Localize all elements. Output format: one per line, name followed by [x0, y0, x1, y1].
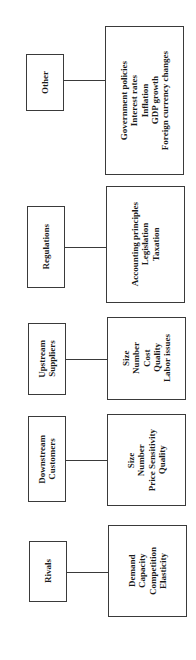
- category-label-downstream-customers: Downstream Customers: [37, 435, 58, 484]
- detail-box-downstream-customers: Size Number Price Sensitivity Quality: [107, 414, 186, 506]
- category-box-rivals: Rivals: [29, 541, 67, 602]
- detail-list-other: Government policies Interest rates Infla…: [119, 51, 171, 150]
- category-box-regulations: Regulations: [27, 206, 65, 288]
- category-box-upstream-suppliers: Upstream Suppliers: [28, 323, 66, 395]
- connector-regulations: [65, 247, 106, 248]
- category-label-upstream-suppliers: Upstream Suppliers: [37, 340, 58, 378]
- detail-box-upstream-suppliers: Size Number Cost Quality Labor issues: [107, 317, 186, 400]
- category-label-rivals: Rivals: [43, 559, 53, 583]
- detail-box-regulations: Accounting principles Legislation Taxati…: [106, 186, 185, 303]
- category-label-other: Other: [40, 71, 50, 94]
- detail-list-rivals: Demand Capacity Competition Elasticity: [127, 547, 168, 595]
- detail-list-downstream-customers: Size Number Price Sensitivity Quality: [126, 429, 167, 491]
- detail-box-other: Government policies Interest rates Infla…: [105, 26, 184, 175]
- category-box-other: Other: [26, 54, 64, 111]
- connector-rivals: [67, 572, 108, 573]
- connector-upstream-suppliers: [66, 359, 107, 360]
- connector-downstream-customers: [66, 460, 107, 461]
- category-label-regulations: Regulations: [41, 224, 51, 270]
- detail-list-upstream-suppliers: Size Number Cost Quality Labor issues: [121, 334, 173, 382]
- category-box-downstream-customers: Downstream Customers: [28, 416, 66, 502]
- detail-list-regulations: Accounting principles Legislation Taxati…: [130, 202, 161, 286]
- detail-box-rivals: Demand Capacity Competition Elasticity: [108, 525, 187, 617]
- connector-other: [64, 80, 105, 81]
